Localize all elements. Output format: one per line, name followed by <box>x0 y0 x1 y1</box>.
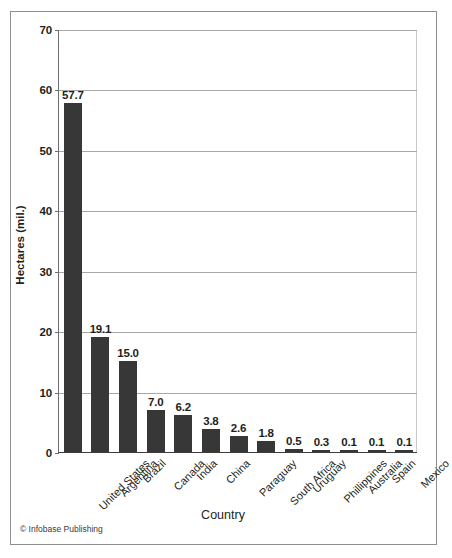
bar-group[interactable]: 7.0 <box>147 29 165 452</box>
y-tick-mark <box>55 272 59 273</box>
bar[interactable] <box>64 103 82 452</box>
bar-value-label: 0.1 <box>396 436 411 448</box>
bar[interactable] <box>340 450 358 452</box>
x-tick-label: China <box>223 457 252 486</box>
y-tick-mark <box>55 332 59 333</box>
y-tick-mark <box>55 151 59 152</box>
bar-group[interactable]: 0.1 <box>395 29 413 452</box>
bar-value-label: 7.0 <box>148 396 163 408</box>
bar[interactable] <box>230 436 248 452</box>
bar[interactable] <box>285 449 303 452</box>
bar[interactable] <box>312 450 330 452</box>
bar-group[interactable]: 15.0 <box>119 29 137 452</box>
bar-value-label: 1.8 <box>258 427 273 439</box>
bar[interactable] <box>395 450 413 452</box>
bar[interactable] <box>174 415 192 452</box>
y-tick-mark <box>55 453 59 454</box>
bar-value-label: 0.5 <box>286 435 301 447</box>
y-tick-label: 10 <box>39 387 52 399</box>
bar[interactable] <box>257 441 275 452</box>
y-tick-label: 30 <box>39 266 52 278</box>
bar-value-label: 6.2 <box>176 401 191 413</box>
bar-value-label: 15.0 <box>117 347 139 359</box>
bar-group[interactable]: 0.3 <box>312 29 330 452</box>
bar-value-label: 0.1 <box>369 436 384 448</box>
y-tick-label: 70 <box>39 24 52 36</box>
bar[interactable] <box>147 410 165 452</box>
bar-group[interactable]: 57.7 <box>64 29 82 452</box>
credit-line: © Infobase Publishing <box>20 524 103 534</box>
y-tick-label: 0 <box>46 447 52 459</box>
y-tick-mark <box>55 393 59 394</box>
bar[interactable] <box>368 450 386 452</box>
x-tick-label: Paraguay <box>256 457 298 499</box>
y-tick-label: 60 <box>39 84 52 96</box>
bar[interactable] <box>91 337 109 452</box>
bar[interactable] <box>119 361 137 452</box>
bar-group[interactable]: 1.8 <box>257 29 275 452</box>
y-tick-label: 40 <box>39 205 52 217</box>
bar-value-label: 3.8 <box>203 415 218 427</box>
y-tick-label: 20 <box>39 326 52 338</box>
bar-value-label: 2.6 <box>231 422 246 434</box>
y-axis-title: Hectares (mil.) <box>14 205 26 284</box>
bar-group[interactable]: 0.5 <box>285 29 303 452</box>
bar-group[interactable]: 19.1 <box>91 29 109 452</box>
bar-group[interactable]: 0.1 <box>340 29 358 452</box>
plot-right-edge <box>416 30 417 452</box>
bar-value-label: 57.7 <box>62 89 84 101</box>
bar-value-label: 0.3 <box>314 436 329 448</box>
x-tick-label: Mexico <box>418 457 451 490</box>
x-axis-title: Country <box>0 508 446 522</box>
bar-group[interactable]: 2.6 <box>230 29 248 452</box>
bar-value-label: 19.1 <box>90 323 112 335</box>
bar[interactable] <box>202 429 220 452</box>
y-tick-mark <box>55 211 59 212</box>
plot-area: 010203040506070 57.719.115.07.06.23.82.6… <box>58 30 417 453</box>
y-tick-mark <box>55 90 59 91</box>
y-tick-mark <box>55 30 59 31</box>
bar-group[interactable]: 6.2 <box>174 29 192 452</box>
bar-group[interactable]: 0.1 <box>368 29 386 452</box>
y-tick-label: 50 <box>39 145 52 157</box>
bar-group[interactable]: 3.8 <box>202 29 220 452</box>
bar-value-label: 0.1 <box>341 436 356 448</box>
